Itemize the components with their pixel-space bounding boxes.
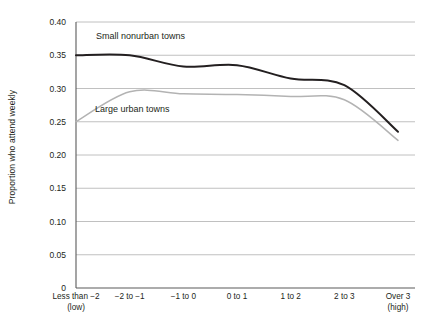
series-line-large-urban-towns xyxy=(76,90,398,140)
series-lines xyxy=(76,54,398,140)
gridlines xyxy=(76,22,415,255)
y-tick-label: 0.05 xyxy=(30,250,66,260)
y-tick-label: 0.40 xyxy=(30,17,66,27)
y-tick-label: 0.35 xyxy=(30,50,66,60)
y-tick-label: 0.20 xyxy=(30,150,66,160)
x-tick-label: Over 3 (high) xyxy=(367,292,424,313)
y-tick-label: 0.30 xyxy=(30,84,66,94)
series-label-large-urban-towns: Large urban towns xyxy=(95,104,170,114)
y-tick-label: 0.25 xyxy=(30,117,66,127)
y-tick-label: 0.15 xyxy=(30,183,66,193)
y-tick-label: 0.10 xyxy=(30,217,66,227)
chart-container: Proportion who attend weekly 0.400.350.3… xyxy=(0,0,424,332)
series-label-small-nonurban-towns: Small nonurban towns xyxy=(96,31,185,41)
